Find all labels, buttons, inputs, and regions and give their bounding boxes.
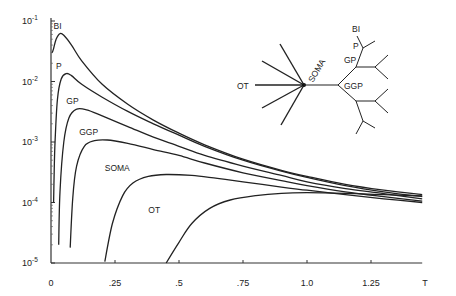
series-label-ggp: GGP — [79, 127, 98, 137]
inset-branch — [375, 55, 388, 67]
inset-branch — [363, 41, 375, 48]
x-tick-label: .25 — [109, 278, 122, 288]
series-label-ot: OT — [148, 205, 160, 215]
x-tick-label: .5 — [175, 278, 183, 288]
y-tick-label: 10-4 — [22, 196, 38, 208]
inset-label-bi: BI — [352, 24, 360, 34]
x-axis-label: T — [422, 278, 428, 288]
series-line-soma — [105, 174, 422, 261]
inset-label-soma: SOMA — [306, 57, 327, 84]
inset-branch — [363, 121, 375, 128]
inset-branch — [356, 121, 363, 134]
series-line-gp — [59, 108, 423, 244]
inset-label-ggp: GGP — [344, 81, 363, 91]
neuron-inset-diagram: BIPGPGGPSOMAOT — [237, 24, 388, 134]
x-tick-label: 1.25 — [362, 278, 380, 288]
inset-branch — [375, 101, 388, 113]
y-tick-label: 10-1 — [22, 14, 38, 26]
inset-branch — [375, 67, 388, 79]
chart-figure: 10-110-210-310-410-50.25.5.751.01.25T BI… — [0, 0, 456, 296]
series-line-p — [54, 73, 423, 202]
axes: 10-110-210-310-410-50.25.5.751.01.25T — [22, 14, 428, 288]
series-label-gp: GP — [66, 96, 79, 106]
series-label-p: P — [56, 61, 62, 71]
curves — [52, 33, 422, 263]
x-tick-label: .75 — [237, 278, 250, 288]
inset-label-p: P — [353, 41, 359, 51]
x-tick-label: 0 — [48, 278, 53, 288]
x-tick-label: 1.0 — [301, 278, 314, 288]
inset-label-ot: OT — [237, 81, 249, 91]
inset-label-gp: GP — [344, 55, 357, 65]
y-tick-label: 10-2 — [22, 75, 38, 87]
series-label-soma: SOMA — [105, 163, 130, 173]
inset-branch — [356, 101, 363, 121]
chart-svg: 10-110-210-310-410-50.25.5.751.01.25T BI… — [0, 0, 456, 296]
inset-branch — [375, 89, 388, 101]
series-label-bi: BI — [54, 21, 62, 31]
y-tick-label: 10-3 — [22, 135, 38, 147]
y-tick-label: 10-5 — [22, 256, 38, 268]
series-line-ot — [166, 193, 422, 263]
